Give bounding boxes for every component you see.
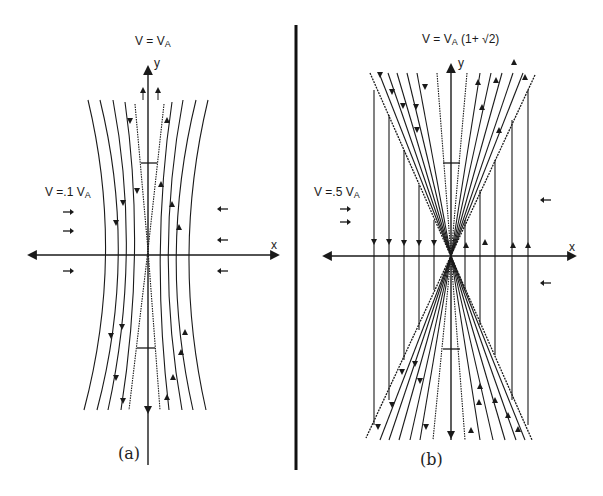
panel-a-x-label: x xyxy=(271,238,277,252)
panel-a xyxy=(32,70,275,465)
panel-a-arrows xyxy=(63,87,228,414)
panel-a-title: V = VA xyxy=(135,34,171,49)
panel-a-y-label: y xyxy=(154,56,160,70)
panel-b-title: V = VA (1+ √2) xyxy=(422,32,499,47)
panel-b xyxy=(327,68,572,440)
panel-b-caption: (b) xyxy=(420,450,443,469)
panel-b-arrows xyxy=(340,59,551,439)
panel-b-side-label: V =.5 VA xyxy=(314,185,360,200)
panel-a-caption: (a) xyxy=(118,444,140,463)
panel-b-x-label: x xyxy=(569,240,575,254)
panel-a-side-label: V =.1 VA xyxy=(45,185,91,200)
field-line-diagram xyxy=(0,0,603,496)
panel-b-y-label: y xyxy=(458,56,464,70)
